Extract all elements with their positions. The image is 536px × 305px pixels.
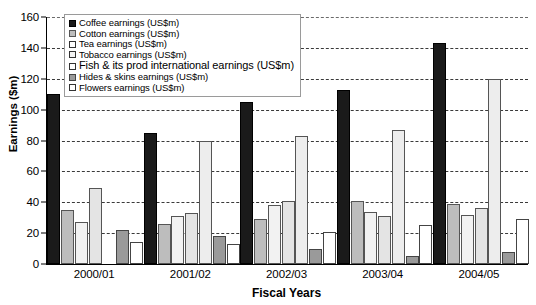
y-axis-tick-label: 60 [27, 165, 39, 177]
legend-item-label: Tea earnings (US$m) [79, 39, 167, 50]
legend-swatch-icon [69, 63, 76, 70]
bar [158, 224, 171, 264]
bar [199, 141, 212, 265]
bar [213, 236, 226, 264]
x-axis-title: Fiscal Years [46, 286, 527, 300]
bar [351, 201, 364, 264]
x-axis: 2000/012001/022002/032003/042004/05 [46, 268, 527, 280]
bar [144, 133, 157, 264]
x-axis-tick-label: 2004/05 [431, 268, 527, 280]
bar [461, 215, 474, 264]
bar [89, 188, 102, 264]
legend-swatch-icon [69, 51, 76, 58]
x-axis-tick-label: 2001/02 [142, 268, 238, 280]
bar [130, 242, 143, 264]
y-axis-tick-label: 100 [20, 104, 39, 116]
bar [516, 219, 529, 264]
x-axis-tick-label: 2002/03 [238, 268, 334, 280]
bar [392, 130, 405, 264]
bar-chart: 020406080100120140160 Earnings ($m) 2000… [0, 0, 536, 305]
y-axis-title: Earnings ($m) [7, 54, 19, 174]
bar [116, 230, 129, 264]
bar [502, 252, 515, 264]
bar [364, 212, 377, 264]
bar [309, 249, 322, 264]
legend-swatch-icon [69, 20, 76, 27]
legend: Coffee earnings (US$m)Cotton earnings (U… [64, 14, 301, 97]
legend-swatch-icon [69, 74, 76, 81]
y-axis-tick-label: 120 [20, 73, 39, 85]
legend-item-label: Flowers earnings (US$m) [79, 83, 184, 94]
bar [227, 244, 240, 264]
bar [171, 216, 184, 264]
bar [323, 232, 336, 264]
legend-item: Hides & skins earnings (US$m) [69, 72, 294, 83]
legend-item-label: Coffee earnings (US$m) [79, 18, 179, 29]
bar [61, 210, 74, 264]
bar [254, 219, 267, 264]
bar [337, 90, 350, 264]
y-axis-tick-label: 40 [27, 196, 39, 208]
x-axis-tick-label: 2000/01 [46, 268, 142, 280]
legend-swatch-icon [69, 84, 76, 91]
legend-swatch-icon [69, 30, 76, 37]
bar [488, 79, 501, 264]
y-axis-tick-label: 20 [27, 227, 39, 239]
bar [75, 222, 88, 264]
bar [185, 213, 198, 264]
bar [295, 136, 308, 264]
legend-swatch-icon [69, 41, 76, 48]
legend-item-label: Hides & skins earnings (US$m) [79, 72, 208, 83]
y-axis-tick-label: 140 [20, 42, 39, 54]
bar [419, 225, 432, 264]
bar [268, 205, 281, 264]
bar [447, 204, 460, 264]
bar [406, 256, 419, 264]
y-axis-tick-label: 80 [27, 135, 39, 147]
y-axis-tick-label: 160 [20, 11, 39, 23]
bar [475, 208, 488, 264]
bar [282, 201, 295, 264]
bar [433, 43, 446, 264]
legend-item: Tea earnings (US$m) [69, 39, 294, 50]
legend-item: Coffee earnings (US$m) [69, 18, 294, 29]
bar [47, 94, 60, 264]
bar-group [336, 17, 432, 264]
y-axis-tick-label: 0 [33, 258, 39, 270]
bar [240, 102, 253, 264]
legend-item: Flowers earnings (US$m) [69, 83, 294, 94]
x-axis-tick-label: 2003/04 [335, 268, 431, 280]
bar-group [433, 17, 529, 264]
bar [378, 216, 391, 264]
